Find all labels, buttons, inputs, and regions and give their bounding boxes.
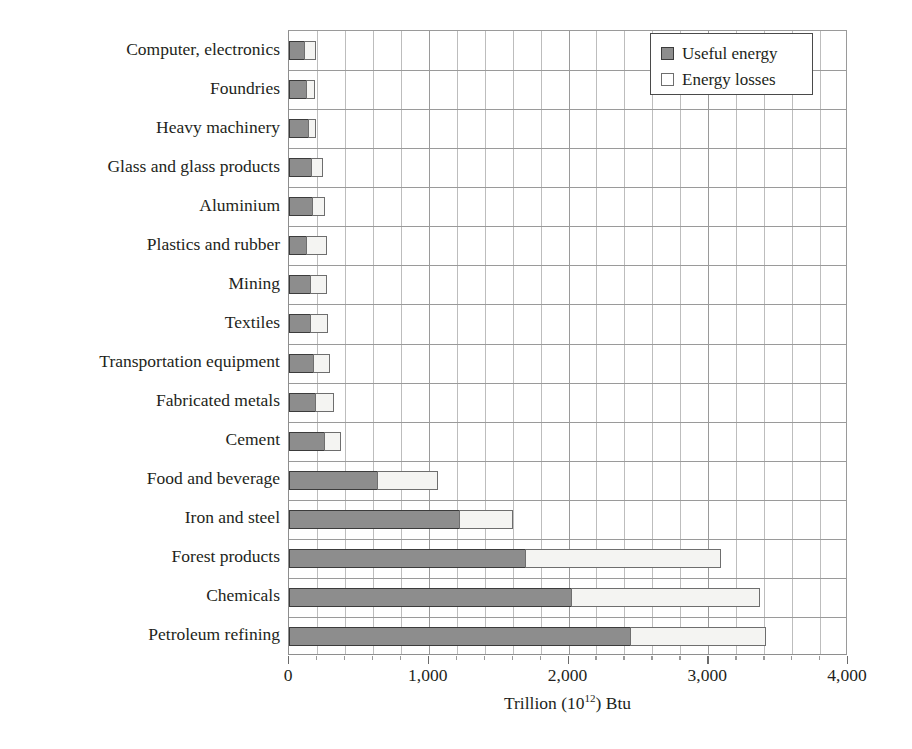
plot-area [288,30,847,655]
legend-label-energy-losses: Energy losses [682,71,776,88]
bar-segment-useful-energy [289,275,311,294]
x-axis-tick-label: 1,000 [378,665,478,686]
bar-segment-energy-losses [306,80,315,99]
bar-segment-energy-losses [308,119,316,138]
x-axis-tick-label: 4,000 [797,665,897,686]
gridline-horizontal [289,265,846,266]
x-axis-tick-minor [316,656,317,660]
bar-segment-energy-losses [311,158,322,177]
x-axis-tick-major [847,656,848,664]
bar-segment-useful-energy [289,588,573,607]
x-axis-title-exponent: 12 [585,692,596,704]
y-axis-label-aluminium: Aluminium [199,196,280,215]
y-axis-label-transportation-equipment: Transportation equipment [99,352,280,371]
gridline-horizontal [289,226,846,227]
y-axis-category-labels: Computer, electronicsFoundriesHeavy mach… [0,30,280,655]
gridline-vertical-minor [736,31,737,654]
y-axis-label-fabricated-metals: Fabricated metals [156,391,280,410]
x-axis-tick-label: 0 [238,665,338,686]
bar-mining [289,275,327,294]
x-axis-tick-minor [400,656,401,660]
bar-segment-energy-losses [315,393,334,412]
x-axis-title-main: Trillion (10 [504,693,585,713]
bar-segment-useful-energy [289,314,312,333]
bar-segment-useful-energy [289,432,326,451]
x-axis-tick-minor [595,656,596,660]
y-axis-label-plastics-and-rubber: Plastics and rubber [147,235,280,254]
x-axis-tick-minor [456,656,457,660]
legend-label-useful-energy: Useful energy [682,45,778,62]
y-axis-label-cement: Cement [226,430,280,449]
bar-heavy-machinery [289,119,316,138]
x-axis-tick-minor [623,656,624,660]
bar-food-and-beverage [289,471,438,490]
bar-segment-energy-losses [630,627,766,646]
x-axis-tick-minor [344,656,345,660]
bar-segment-energy-losses [525,549,721,568]
gridline-horizontal [289,109,846,110]
bar-segment-useful-energy [289,354,315,373]
bar-petroleum-refining [289,627,766,646]
y-axis-label-forest-products: Forest products [172,547,280,566]
bar-segment-energy-losses [324,432,341,451]
y-axis-label-foundries: Foundries [210,79,280,98]
legend-item-energy-losses: Energy losses [661,66,812,92]
x-axis: 01,0002,0003,0004,000 [288,656,847,696]
y-axis-label-heavy-machinery: Heavy machinery [156,118,280,137]
gridline-vertical-minor [792,31,793,654]
y-axis-label-chemicals: Chemicals [206,586,280,605]
x-axis-tick-minor [512,656,513,660]
bar-textiles [289,314,328,333]
gridline-horizontal [289,578,846,579]
y-axis-label-iron-and-steel: Iron and steel [185,508,280,527]
x-axis-tick-minor [651,656,652,660]
y-axis-label-mining: Mining [228,274,280,293]
y-axis-label-textiles: Textiles [225,313,280,332]
x-axis-tick-label: 2,000 [518,665,618,686]
bar-chemicals [289,588,760,607]
gridline-horizontal [289,148,846,149]
bar-segment-energy-losses [312,197,325,216]
x-axis-tick-label: 3,000 [657,665,757,686]
x-axis-tick-major [707,656,708,664]
x-axis-tick-minor [540,656,541,660]
y-axis-label-glass-and-glass-products: Glass and glass products [107,157,280,176]
bar-segment-useful-energy [289,510,461,529]
bar-segment-useful-energy [289,393,317,412]
gridline-vertical-minor [820,31,821,654]
chart-root: Computer, electronicsFoundriesHeavy mach… [0,0,912,749]
bar-segment-energy-losses [310,275,327,294]
chart-legend: Useful energy Energy losses [650,33,813,95]
bar-transportation-equipment [289,354,330,373]
y-axis-label-computer-electronics: Computer, electronics [126,40,280,59]
bar-segment-useful-energy [289,197,313,216]
bar-cement [289,432,341,451]
x-axis-tick-minor [819,656,820,660]
gridline-horizontal [289,539,846,540]
gridline-vertical-minor [764,31,765,654]
bar-segment-energy-losses [306,236,328,255]
bar-segment-energy-losses [313,354,329,373]
gridline-horizontal [289,617,846,618]
x-axis-tick-minor [484,656,485,660]
bar-glass-and-glass-products [289,158,323,177]
bar-segment-useful-energy [289,471,378,490]
bar-segment-energy-losses [571,588,760,607]
x-axis-tick-major [428,656,429,664]
gridline-horizontal [289,500,846,501]
bar-plastics-and-rubber [289,236,327,255]
bar-foundries [289,80,315,99]
y-axis-label-food-and-beverage: Food and beverage [147,469,280,488]
bar-iron-and-steel [289,510,513,529]
x-axis-title-tail: ) Btu [596,693,632,713]
gridline-horizontal [289,422,846,423]
gridline-horizontal [289,304,846,305]
bar-forest-products [289,549,721,568]
bar-segment-useful-energy [289,627,631,646]
bar-segment-useful-energy [289,80,307,99]
x-axis-tick-minor [372,656,373,660]
bar-aluminium [289,197,325,216]
bar-fabricated-metals [289,393,334,412]
x-axis-tick-minor [763,656,764,660]
bar-segment-energy-losses [459,510,512,529]
